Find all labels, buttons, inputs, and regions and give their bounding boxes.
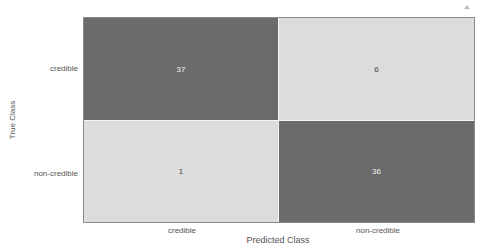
cell-true-non-credible-pred-non-credible: 36	[279, 121, 474, 222]
x-axis-label: Predicted Class	[246, 235, 309, 245]
cell-divider-horizontal	[84, 120, 474, 121]
plot-area: 37 6 1 36	[83, 17, 475, 223]
confusion-matrix-chart: True Class credible non-credible 37 6 1 …	[0, 0, 485, 248]
x-tick-credible: credible	[168, 226, 196, 235]
y-axis-label: True Class	[8, 101, 17, 139]
y-tick-non-credible: non-credible	[34, 169, 78, 178]
x-tick-non-credible: non-credible	[356, 226, 400, 235]
cell-true-credible-pred-credible: 37	[84, 18, 278, 120]
cell-true-credible-pred-non-credible: 6	[279, 18, 474, 120]
corner-mark-icon	[463, 4, 471, 10]
y-tick-credible: credible	[50, 64, 78, 73]
cell-true-non-credible-pred-credible: 1	[84, 121, 278, 222]
